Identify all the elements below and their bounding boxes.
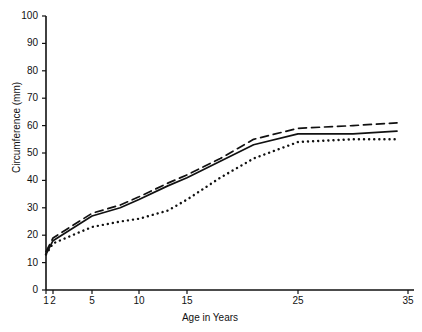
x-tick-label: 25 [286, 296, 310, 306]
x-tick-label: 2 [41, 296, 65, 306]
x-axis-title: Age in Years [150, 312, 270, 323]
chart-figure: 0102030405060708090100 12510152535 Circu… [0, 0, 422, 332]
data-series-line [46, 123, 397, 252]
data-series-line [46, 131, 397, 254]
y-axis-title: Circumference (mm) [11, 68, 22, 188]
y-tick-label: 100 [12, 11, 38, 21]
data-series-line [46, 139, 397, 254]
x-tick-label: 5 [80, 296, 104, 306]
y-tick-label: 0 [12, 285, 38, 295]
y-tick-label: 90 [12, 38, 38, 48]
y-tick-label: 10 [12, 258, 38, 268]
chart-canvas [0, 0, 422, 332]
x-tick-label: 15 [175, 296, 199, 306]
data-series-group [46, 123, 397, 255]
y-tick-label: 20 [12, 230, 38, 240]
x-tick-label: 10 [127, 296, 151, 306]
x-tick-label: 35 [396, 296, 420, 306]
y-tick-label: 30 [12, 203, 38, 213]
